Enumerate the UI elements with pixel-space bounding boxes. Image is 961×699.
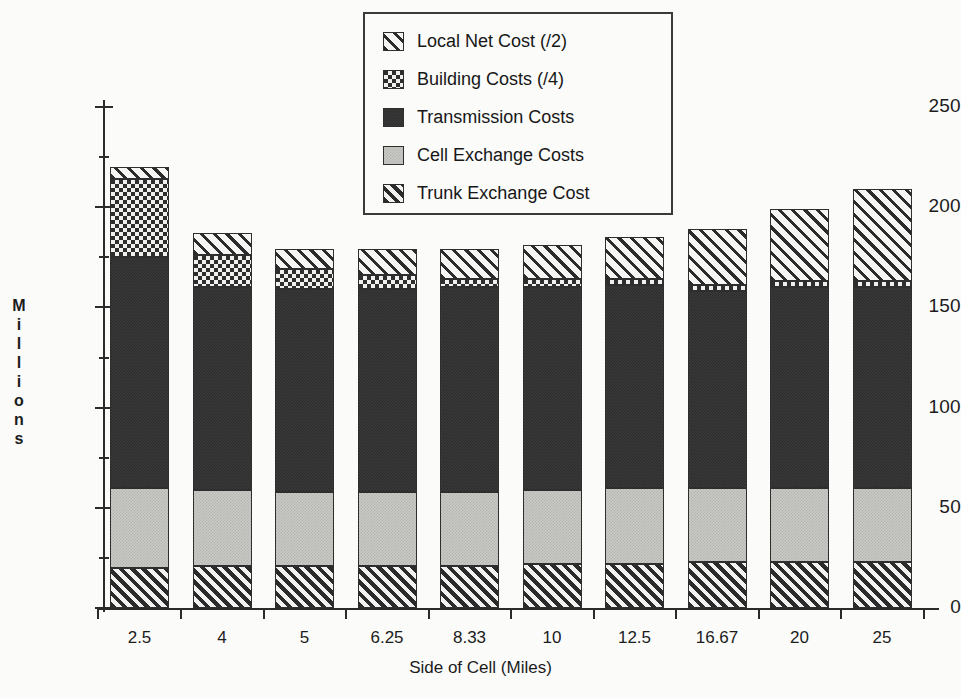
x-tick-label: 10 [512,628,592,648]
bar-segment [605,237,664,279]
x-tick-label: 16.67 [677,628,757,648]
bar-column [688,229,747,608]
legend-item: Cell Exchange Costs [383,144,584,166]
bar-segment [358,275,417,289]
bar-segment [853,488,912,562]
bar-segment [605,488,664,564]
x-axis-title: Side of Cell (Miles) [0,658,961,678]
bar-segment [275,566,334,608]
bar-segment [110,167,169,179]
bar-segment [523,279,582,287]
legend-item-label: Building Costs (/4) [417,69,564,90]
x-tick-mark [97,608,99,619]
x-tick-mark [840,608,842,619]
bar-segment [688,562,747,608]
x-tick-label: 5 [265,628,345,648]
bar-segment [440,566,499,608]
legend-swatch-icon [383,32,404,51]
bar-segment [275,492,334,566]
bar-segment [853,189,912,281]
legend-swatch-icon [383,184,404,203]
x-tick-mark [923,608,925,619]
bar-column [358,249,417,608]
bar-segment [193,490,252,566]
x-axis-line [97,608,939,610]
x-tick-label: 25 [842,628,922,648]
bar-segment [523,245,582,279]
bar-segment [440,492,499,566]
x-tick-mark [510,608,512,619]
bar-segment [193,566,252,608]
bar-segment [440,279,499,287]
bar-segment [770,281,829,287]
bar-segment [523,287,582,489]
bar-segment [853,287,912,487]
legend-item-label: Cell Exchange Costs [417,145,584,166]
bar-segment [770,287,829,487]
bar-segment [110,488,169,568]
legend-item: Transmission Costs [383,106,574,128]
x-tick-mark [263,608,265,619]
bar-segment [853,562,912,608]
chart-legend: Local Net Cost (/2)Building Costs (/4)Tr… [363,12,673,215]
bar-segment [605,564,664,608]
bar-segment [605,279,664,285]
bar-segment [110,179,169,257]
bar-segment [358,249,417,275]
stacked-bar-chart: Millions 050100150200250 2.5456.258.3310… [0,0,961,699]
bar-segment [358,289,417,491]
x-tick-mark [593,608,595,619]
bar-column [523,245,582,608]
bar-segment [688,229,747,285]
bar-column [853,189,912,608]
legend-swatch-icon [383,70,404,89]
bar-segment [770,562,829,608]
bar-segment [770,488,829,562]
bar-segment [275,249,334,269]
x-tick-label: 6.25 [347,628,427,648]
bar-segment [688,291,747,487]
x-tick-mark [675,608,677,619]
bar-column [605,237,664,608]
legend-item: Building Costs (/4) [383,68,564,90]
legend-item: Trunk Exchange Cost [383,182,589,204]
x-tick-mark [345,608,347,619]
bar-segment [193,287,252,489]
x-tick-mark [180,608,182,619]
bar-segment [605,285,664,487]
x-tick-label: 8.33 [430,628,510,648]
bar-segment [358,492,417,566]
bar-column [275,249,334,608]
x-tick-mark [758,608,760,619]
legend-item: Local Net Cost (/2) [383,30,567,52]
legend-item-label: Transmission Costs [417,107,574,128]
bar-column [770,209,829,608]
bar-column [110,167,169,608]
legend-item-label: Local Net Cost (/2) [417,31,567,52]
bar-segment [523,564,582,608]
x-tick-label: 2.5 [100,628,180,648]
bar-segment [358,566,417,608]
bar-segment [688,488,747,562]
bar-segment [440,249,499,279]
bar-segment [440,287,499,491]
bar-segment [275,289,334,491]
bar-segment [523,490,582,564]
legend-swatch-icon [383,108,404,127]
legend-swatch-icon [383,146,404,165]
legend-item-label: Trunk Exchange Cost [417,183,589,204]
x-tick-label: 12.5 [595,628,675,648]
bar-segment [853,281,912,287]
bar-segment [193,255,252,287]
bar-segment [110,568,169,608]
x-tick-label: 4 [182,628,262,648]
bar-segment [275,269,334,289]
bar-column [193,233,252,608]
bar-segment [193,233,252,255]
bar-segment [688,285,747,291]
x-tick-label: 20 [760,628,840,648]
x-tick-mark [428,608,430,619]
bar-column [440,249,499,608]
bar-segment [770,209,829,281]
bar-segment [110,257,169,487]
